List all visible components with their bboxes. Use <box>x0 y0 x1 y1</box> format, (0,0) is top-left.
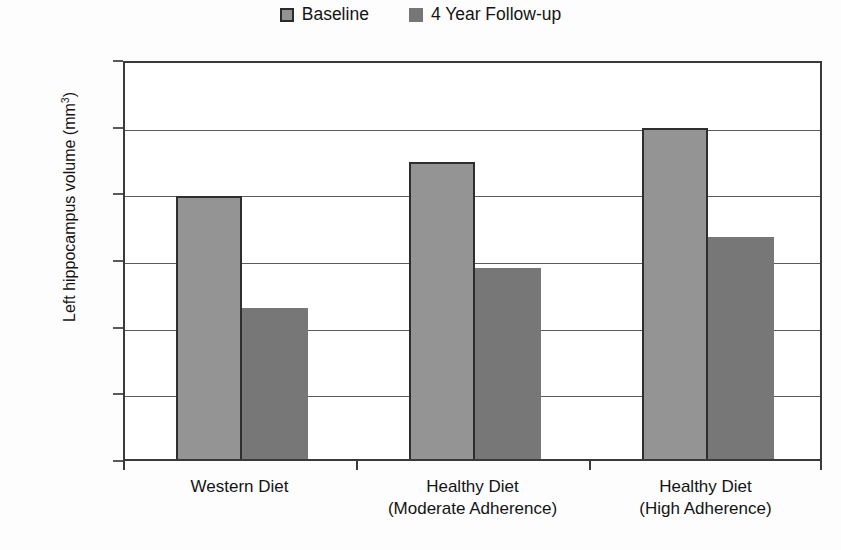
x-category-label: Western Diet <box>191 476 289 498</box>
legend-entry-followup: 4 Year Follow-up <box>409 6 561 24</box>
legend-entry-baseline: Baseline <box>280 6 369 24</box>
x-tick-mark <box>589 459 591 470</box>
legend-label-followup: 4 Year Follow-up <box>431 6 561 24</box>
legend-swatch-followup-icon <box>409 8 423 22</box>
y-tick-mark <box>113 393 123 395</box>
y-axis-title: Left hippocampus volume (mm3) <box>61 0 79 417</box>
bar-baseline-0 <box>176 196 242 459</box>
x-category-label-line1: Western Diet <box>191 477 289 496</box>
x-category-label-line2: (Moderate Adherence) <box>388 498 557 520</box>
chart-legend: Baseline 4 Year Follow-up <box>0 6 841 24</box>
bar-followup-1 <box>475 268 541 459</box>
bar-followup-0 <box>242 308 308 459</box>
legend-swatch-baseline-icon <box>280 8 294 22</box>
y-axis-title-base: Left hippocampus volume (mm <box>61 103 78 322</box>
y-tick-mark <box>113 60 123 62</box>
y-axis-title-close: ) <box>61 92 78 97</box>
y-tick-mark <box>113 327 123 329</box>
x-category-label-line1: Healthy Diet <box>426 477 519 496</box>
x-category-label: Healthy Diet(High Adherence) <box>639 476 771 521</box>
legend-label-baseline: Baseline <box>302 6 369 24</box>
x-tick-mark <box>356 459 358 470</box>
y-tick-mark <box>113 460 123 462</box>
gridline <box>125 130 820 131</box>
y-tick-mark <box>113 127 123 129</box>
bar-baseline-2 <box>642 128 708 459</box>
x-category-label: Healthy Diet(Moderate Adherence) <box>388 476 557 521</box>
y-tick-mark <box>113 193 123 195</box>
bar-followup-2 <box>708 237 774 459</box>
bar-chart-figure: Baseline 4 Year Follow-up Left hippocamp… <box>0 0 841 550</box>
y-tick-mark <box>113 260 123 262</box>
plot-area <box>123 61 822 461</box>
x-tick-mark <box>123 459 125 470</box>
x-tick-mark <box>820 459 822 470</box>
plot-inner <box>125 63 820 459</box>
y-axis-title-superscript: 3 <box>59 97 71 103</box>
x-category-label-line2: (High Adherence) <box>639 498 771 520</box>
x-category-label-line1: Healthy Diet <box>659 477 752 496</box>
bar-baseline-1 <box>409 162 475 459</box>
